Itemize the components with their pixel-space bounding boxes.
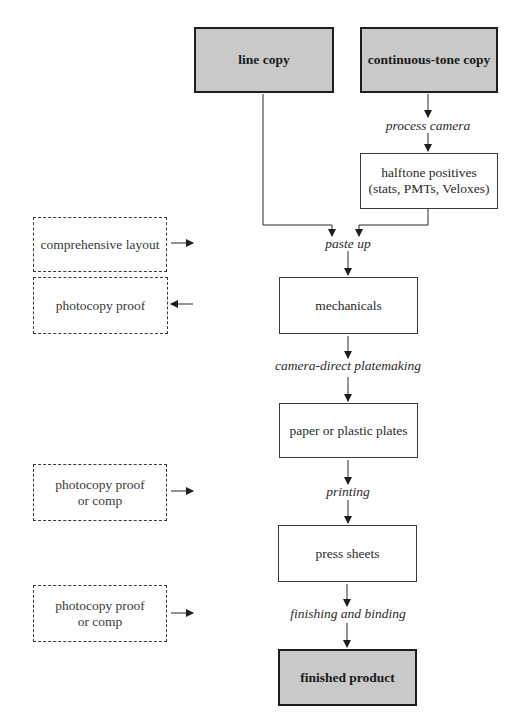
continuous-tone-copy-label: continuous-tone copy	[368, 52, 491, 68]
step-finishing-and-binding: finishing and binding	[290, 606, 406, 622]
plates-label: paper or plastic plates	[289, 423, 407, 439]
proof-or-comp-2-line1: photocopy proof	[55, 598, 145, 614]
photocopy-proof-label: photocopy proof	[56, 298, 146, 314]
step-printing: printing	[326, 484, 370, 500]
proof-or-comp-2-line2: or comp	[78, 614, 123, 630]
photocopy-proof-or-comp-box-2: photocopy proof or comp	[33, 585, 167, 642]
step-process-camera: process camera	[386, 118, 471, 134]
mechanicals-label: mechanicals	[315, 298, 382, 314]
halftone-positives-box: halftone positives (stats, PMTs, Veloxes…	[360, 153, 498, 209]
line-copy-box: line copy	[194, 27, 334, 93]
proof-or-comp-1-line1: photocopy proof	[55, 477, 145, 493]
finished-product-label: finished product	[300, 670, 395, 686]
finished-product-box: finished product	[278, 649, 417, 706]
photocopy-proof-or-comp-box-1: photocopy proof or comp	[33, 464, 167, 521]
plates-box: paper or plastic plates	[279, 403, 418, 458]
continuous-tone-copy-box: continuous-tone copy	[360, 27, 498, 93]
press-sheets-label: press sheets	[315, 546, 379, 562]
photocopy-proof-box: photocopy proof	[33, 277, 168, 334]
comprehensive-layout-label: comprehensive layout	[41, 237, 160, 253]
proof-or-comp-1-line2: or comp	[78, 493, 123, 509]
step-paste-up: paste up	[325, 236, 370, 252]
halftone-line1: halftone positives	[381, 165, 477, 181]
mechanicals-box: mechanicals	[279, 277, 418, 334]
comprehensive-layout-box: comprehensive layout	[33, 217, 167, 272]
line-copy-label: line copy	[238, 52, 289, 68]
step-camera-direct-platemaking: camera-direct platemaking	[275, 358, 421, 374]
halftone-line2: (stats, PMTs, Veloxes)	[368, 181, 489, 197]
press-sheets-box: press sheets	[278, 525, 417, 582]
